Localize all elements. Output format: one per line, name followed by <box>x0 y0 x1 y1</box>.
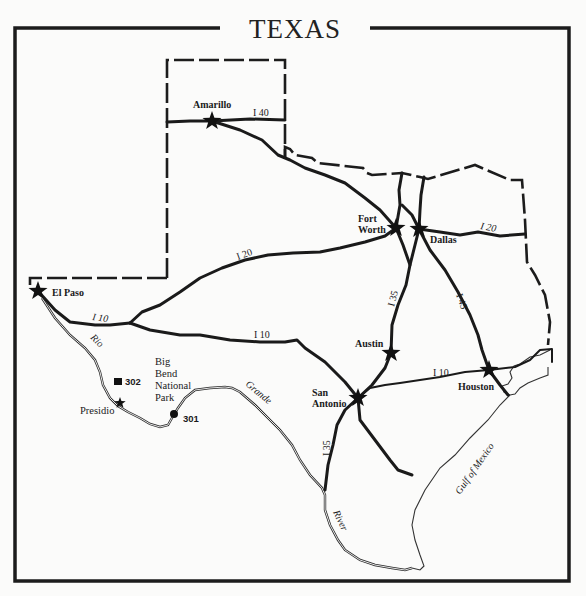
hwy-label-i35-south: I 35 <box>321 440 332 456</box>
city-label-san-antonio-1: San <box>312 387 329 398</box>
marker-302-label: 302 <box>125 376 141 387</box>
city-label-fort-worth-2: Worth <box>358 224 386 235</box>
river-label-river: River <box>331 507 351 532</box>
highway-fw-north <box>396 173 402 228</box>
park-label-line2: Bend <box>155 368 178 379</box>
hwy-label-i40: I 40 <box>253 107 269 118</box>
marker-301-circle <box>170 410 178 418</box>
highway-i40 <box>167 119 285 122</box>
river-label-rio: Rio <box>88 331 106 349</box>
state-border <box>30 60 550 345</box>
hwy-label-i10-central: I 10 <box>254 329 270 340</box>
highway-i35-north <box>391 228 410 353</box>
map-title: TEXAS <box>249 14 341 44</box>
marker-301-label: 301 <box>183 413 200 424</box>
park-label-line4: Park <box>155 392 175 403</box>
city-label-san-antonio-2: Antonio <box>312 398 346 409</box>
park-label-line1: Big <box>155 356 171 367</box>
star-icon-austin <box>382 343 401 361</box>
city-label-el-paso: El Paso <box>52 287 84 298</box>
park-label-line3: National <box>155 380 191 391</box>
hwy-label-i10-west: I 10 <box>91 311 109 324</box>
city-stars <box>29 111 499 408</box>
star-icon-amarillo <box>203 111 222 129</box>
city-label-amarillo: Amarillo <box>193 99 231 110</box>
river-label-grande: Grande <box>244 378 275 406</box>
marker-302-square <box>114 378 122 385</box>
map-frame <box>15 28 569 581</box>
city-label-fort-worth-1: Fort <box>358 213 378 224</box>
texas-map: TEXAS <box>0 0 586 596</box>
highway-i20-west <box>130 228 396 323</box>
city-label-dallas: Dallas <box>430 234 457 245</box>
gulf-label: Gulf of Mexico <box>453 441 496 496</box>
city-label-houston: Houston <box>458 381 495 392</box>
highways <box>38 119 552 490</box>
highway-sa-coast <box>358 398 412 475</box>
city-label-austin: Austin <box>355 338 384 349</box>
star-icon-houston <box>480 360 499 378</box>
hwy-label-i10-east: I 10 <box>433 367 449 378</box>
city-label-presidio: Presidio <box>80 405 114 416</box>
